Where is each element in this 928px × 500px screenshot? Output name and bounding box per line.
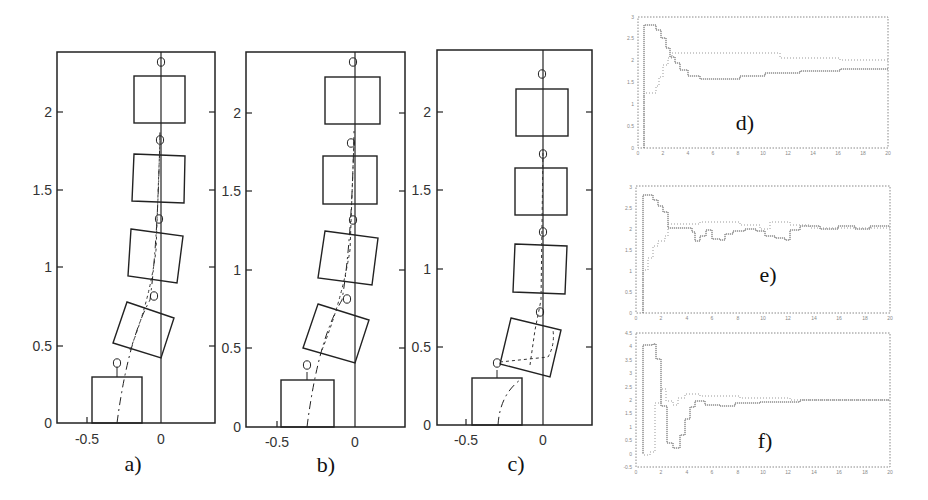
panel-c-block-1 xyxy=(500,318,561,377)
panel-a-ytick-0.5: 0.5 xyxy=(33,338,53,354)
panel-c-block-3 xyxy=(515,168,567,215)
svg-text:2.5: 2.5 xyxy=(625,384,632,390)
panel-a-xtick-neg0.5: -0.5 xyxy=(75,431,99,447)
panel-c-block-2 xyxy=(513,244,567,294)
svg-text:20: 20 xyxy=(887,469,893,475)
panel-b-block-4 xyxy=(325,77,380,124)
panel-a-caption: a) xyxy=(124,451,141,476)
panel-a: 0 0.5 1 1.5 2 -0.5 0 a) xyxy=(33,52,215,476)
svg-text:8: 8 xyxy=(737,315,740,321)
svg-text:2: 2 xyxy=(662,150,665,156)
svg-text:1.5: 1.5 xyxy=(625,247,632,253)
panel-b-xtick-0: 0 xyxy=(351,434,359,450)
svg-text:1.5: 1.5 xyxy=(625,410,632,416)
panel-e-caption: e) xyxy=(759,262,776,287)
panel-c-base-block xyxy=(472,378,522,425)
svg-text:0.5: 0.5 xyxy=(625,437,632,443)
svg-text:12: 12 xyxy=(785,315,791,321)
svg-text:1: 1 xyxy=(631,101,634,107)
svg-text:10: 10 xyxy=(760,150,766,156)
panel-d: 0 0.5 1 1.5 2 2.5 3 02468101214161820 d) xyxy=(627,14,891,156)
panel-c-frame xyxy=(437,50,592,425)
svg-text:0.5: 0.5 xyxy=(625,289,632,295)
panel-b-ytick-1.5: 1.5 xyxy=(222,183,242,199)
panel-b-trajectory-dashdot xyxy=(307,130,354,427)
panel-a-ytick-1.5: 1.5 xyxy=(33,182,53,198)
svg-text:3.5: 3.5 xyxy=(625,357,632,363)
svg-text:2.5: 2.5 xyxy=(625,205,632,211)
panel-a-xtick-0: 0 xyxy=(157,431,165,447)
panel-c-ytick-2: 2 xyxy=(423,104,431,120)
panel-d-series-dotted xyxy=(644,53,888,148)
svg-text:4: 4 xyxy=(629,343,632,349)
svg-text:3: 3 xyxy=(631,14,634,20)
svg-text:10: 10 xyxy=(760,469,766,475)
svg-text:0.5: 0.5 xyxy=(627,123,634,129)
panel-e: 0 0.5 1 1.5 2 2.5 3 02468101214161820 e) xyxy=(625,184,893,321)
panel-b-block-2 xyxy=(318,231,378,285)
svg-text:18: 18 xyxy=(860,150,866,156)
svg-text:16: 16 xyxy=(835,150,841,156)
svg-text:1: 1 xyxy=(629,268,632,274)
panel-e-frame xyxy=(636,186,890,313)
panel-c-joint-5 xyxy=(538,70,545,78)
svg-text:18: 18 xyxy=(862,469,868,475)
panel-f: -0.5 0 0.5 1 1.5 2 2.5 3 3.5 4 4.5 02468… xyxy=(623,330,893,475)
panel-b-block-3 xyxy=(323,156,377,204)
svg-text:2.5: 2.5 xyxy=(627,35,634,41)
panel-b-ytick-0.5: 0.5 xyxy=(222,340,242,356)
panel-a-ytick-0: 0 xyxy=(44,415,52,431)
panel-d-frame xyxy=(638,17,888,148)
panel-a-joint-1 xyxy=(113,359,120,367)
panel-b: 0 0.5 1 1.5 2 -0.5 0 b) xyxy=(222,52,405,477)
svg-text:14: 14 xyxy=(811,315,817,321)
panel-a-base-block xyxy=(92,377,142,423)
svg-text:14: 14 xyxy=(810,150,816,156)
panel-b-trajectory-dashed xyxy=(322,140,354,350)
svg-text:6: 6 xyxy=(712,150,715,156)
panel-e-series-solid xyxy=(643,195,890,313)
panel-b-joint-2 xyxy=(343,295,350,303)
svg-text:12: 12 xyxy=(785,150,791,156)
panel-d-axis-labels: 0 0.5 1 1.5 2 2.5 3 02468101214161820 xyxy=(627,14,891,156)
svg-text:4: 4 xyxy=(686,315,689,321)
svg-text:16: 16 xyxy=(836,315,842,321)
svg-text:12: 12 xyxy=(785,469,791,475)
panel-a-joint-2 xyxy=(150,292,157,300)
panel-f-caption: f) xyxy=(758,428,773,453)
svg-text:6: 6 xyxy=(711,315,714,321)
panel-c-ytick-1.5: 1.5 xyxy=(412,182,432,198)
svg-text:16: 16 xyxy=(836,469,842,475)
panel-a-ytick-1: 1 xyxy=(44,259,52,275)
panel-c-trajectory-dashdot xyxy=(498,380,520,425)
svg-text:0: 0 xyxy=(635,469,638,475)
svg-text:18: 18 xyxy=(862,315,868,321)
panel-c-ytick-1: 1 xyxy=(423,261,431,277)
svg-text:20: 20 xyxy=(885,150,891,156)
panel-c-xtick-neg0.5: -0.5 xyxy=(454,432,478,448)
svg-text:4.5: 4.5 xyxy=(625,330,632,336)
panel-b-ytick-1: 1 xyxy=(233,262,241,278)
figure-canvas: 0 0.5 1 1.5 2 -0.5 0 a) xyxy=(0,0,928,500)
svg-text:3: 3 xyxy=(629,370,632,376)
svg-text:0: 0 xyxy=(635,315,638,321)
panel-c-xtick-0: 0 xyxy=(539,432,547,448)
svg-text:4: 4 xyxy=(686,469,689,475)
panel-c-block-4 xyxy=(516,89,568,136)
panel-b-xtick-neg0.5: -0.5 xyxy=(265,434,289,450)
panel-c-caption: c) xyxy=(507,451,524,476)
panel-a-trajectory-dashdot xyxy=(117,130,160,423)
svg-text:1: 1 xyxy=(629,424,632,430)
panel-b-caption: b) xyxy=(317,452,335,477)
svg-text:2: 2 xyxy=(629,226,632,232)
panel-d-series-solid xyxy=(644,25,888,148)
svg-text:2: 2 xyxy=(629,397,632,403)
svg-text:20: 20 xyxy=(887,315,893,321)
panel-b-ytick-0: 0 xyxy=(233,419,241,435)
panel-b-joint-1 xyxy=(303,361,310,369)
panel-e-axis-labels: 0 0.5 1 1.5 2 2.5 3 02468101214161820 xyxy=(625,184,893,321)
svg-text:2: 2 xyxy=(660,469,663,475)
svg-text:6: 6 xyxy=(711,469,714,475)
svg-text:4: 4 xyxy=(687,150,690,156)
panel-a-block-4 xyxy=(134,76,185,123)
